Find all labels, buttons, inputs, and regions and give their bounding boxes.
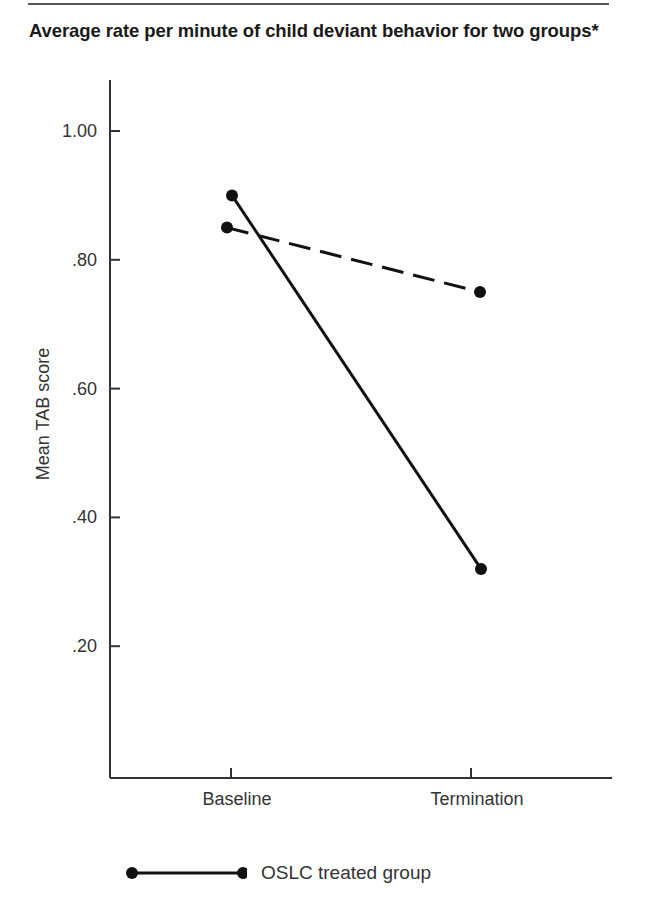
data-point-marker <box>475 563 487 575</box>
legend-marker-icon <box>126 867 138 879</box>
series-group <box>221 189 487 575</box>
y-tick-label: .80 <box>72 250 97 270</box>
y-tick-label: .40 <box>72 507 97 527</box>
series-line-dashed <box>227 228 480 292</box>
x-tick-label: Termination <box>430 789 523 809</box>
y-tick-label: .60 <box>72 379 97 399</box>
x-tick-label: Baseline <box>202 789 271 809</box>
x-axis-ticks: BaselineTermination <box>202 768 523 809</box>
y-axis-ticks: 1.00.80.60.40.20 <box>62 121 120 656</box>
data-point-marker <box>226 189 238 201</box>
y-axis-label: Mean TAB score <box>33 348 53 480</box>
data-point-marker <box>221 222 233 234</box>
y-tick-label: .20 <box>72 636 97 656</box>
line-chart: 1.00.80.60.40.20 BaselineTermination Mea… <box>0 0 645 902</box>
data-point-marker <box>474 286 486 298</box>
legend-marker-icon <box>237 867 247 879</box>
legend-swatch-solid <box>125 858 247 888</box>
legend-label: OSLC treated group <box>261 862 431 884</box>
series-line-solid <box>232 195 481 569</box>
legend: OSLC treated group <box>125 858 431 888</box>
y-tick-label: 1.00 <box>62 121 97 141</box>
